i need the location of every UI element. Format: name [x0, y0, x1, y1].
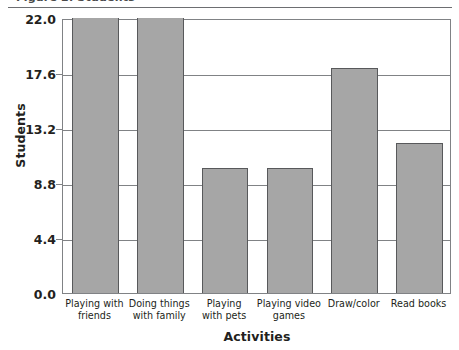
x-axis-category-line: friends [62, 310, 127, 322]
x-axis-category-line: Playing video [257, 298, 322, 310]
x-axis-category-line: games [257, 310, 322, 322]
x-axis-category-label: Read books [386, 298, 451, 310]
x-axis-category-label: Doing thingswith family [127, 298, 192, 321]
gridline [63, 130, 450, 131]
x-axis-category-label: Playing videogames [257, 298, 322, 321]
x-axis-title: Activities [62, 329, 452, 344]
bar [202, 168, 249, 293]
x-axis-category-label: Draw/color [321, 298, 386, 310]
bar [137, 18, 184, 293]
bar [396, 143, 443, 293]
x-axis-category-line: Playing [192, 298, 257, 310]
bar [331, 68, 378, 293]
x-axis-category-line: with pets [192, 310, 257, 322]
y-axis-tick-label: 13.2 [0, 122, 56, 137]
x-axis-category-label: Playing withfriends [62, 298, 127, 321]
gridline [63, 240, 450, 241]
plot-area [62, 19, 451, 294]
gridline [63, 185, 450, 186]
y-axis-tick-label: 4.4 [0, 232, 56, 247]
bar-chart-figure: Students 0.04.48.813.217.622.0 Playing w… [0, 0, 459, 350]
y-axis-tick-label: 17.6 [0, 67, 56, 82]
y-axis-tick-label: 0.0 [0, 287, 56, 302]
x-axis-category-line: with family [127, 310, 192, 322]
gridline [63, 75, 450, 76]
y-axis-tick-label: 8.8 [0, 177, 56, 192]
bar [267, 168, 314, 293]
x-axis-category-line: Read books [386, 298, 451, 310]
x-axis-category-line: Playing with [62, 298, 127, 310]
x-axis-category-line: Draw/color [321, 298, 386, 310]
bar [72, 18, 119, 293]
x-axis-category-line: Doing things [127, 298, 192, 310]
x-axis-category-label: Playingwith pets [192, 298, 257, 321]
y-axis-tick-label: 22.0 [0, 12, 56, 27]
